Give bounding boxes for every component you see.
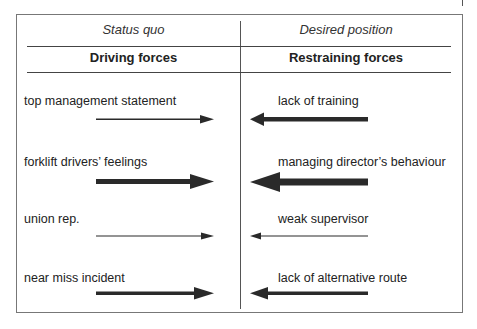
driving-arrow-right-icon: [96, 115, 214, 123]
restraining-arrow-left-icon: [250, 113, 368, 127]
force-arrows: [0, 0, 477, 329]
driving-arrow-right-icon: [96, 174, 214, 189]
restraining-arrow-left-icon: [250, 233, 368, 240]
restraining-arrow-left-icon: [250, 172, 368, 192]
restraining-arrow-left-icon: [250, 287, 368, 300]
driving-arrow-right-icon: [96, 287, 214, 300]
driving-arrow-right-icon: [96, 233, 214, 240]
